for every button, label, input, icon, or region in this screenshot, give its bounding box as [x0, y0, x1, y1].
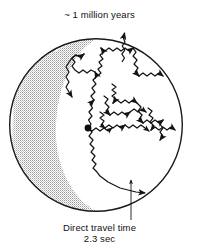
- label-escape-time: ~ 1 million years: [0, 9, 199, 20]
- escape-ray-path: [122, 33, 125, 62]
- shaded-core-region: [12, 39, 96, 212]
- direct-travel-path: [88, 128, 145, 193]
- label-direct-travel: Direct travel time 2.3 sec: [0, 222, 199, 244]
- diagram-canvas: [0, 0, 199, 251]
- label-direct-travel-line2: 2.3 sec: [0, 233, 199, 244]
- seismic-diagram-figure: ~ 1 million years Direct travel time 2.3…: [0, 0, 199, 251]
- source-point: [85, 125, 92, 132]
- random-walk-path: [66, 48, 175, 140]
- label-direct-travel-line1: Direct travel time: [63, 222, 136, 233]
